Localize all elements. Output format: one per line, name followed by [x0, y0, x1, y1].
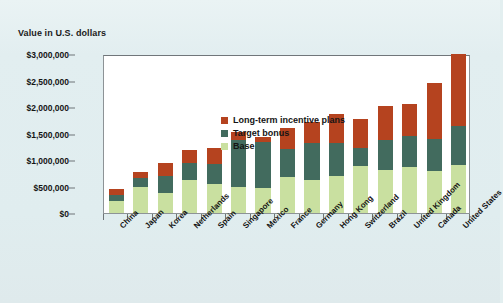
- x-axis-label-japan: Japan: [143, 208, 166, 231]
- x-axis-label-spain: Spain: [216, 209, 238, 231]
- x-axis-label-france: France: [289, 205, 314, 230]
- x-axis-label-china: China: [118, 208, 140, 230]
- x-axis-label-brazil: Brazil: [387, 209, 409, 231]
- x-axis-label-united-states: United States: [461, 188, 503, 231]
- x-axis-label-korea: Korea: [167, 208, 189, 230]
